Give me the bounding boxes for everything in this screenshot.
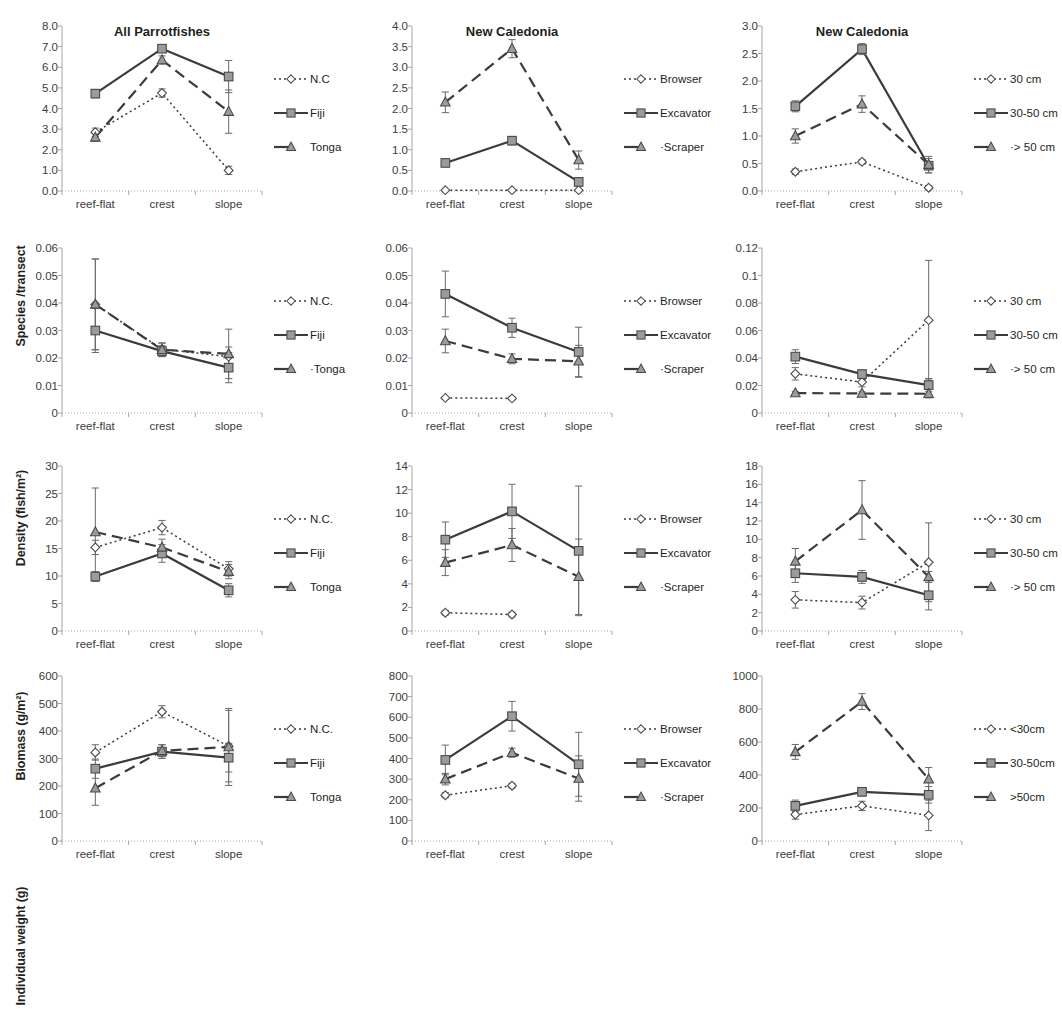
legend-item[interactable]: ·> 50 cm	[974, 570, 1062, 604]
legend-marker-icon	[974, 546, 1008, 560]
y-tick-label: 200	[739, 802, 758, 814]
plot-area: 02004006008001000reef-flatcrestslope	[762, 676, 962, 841]
y-tick-labels: 0.00.51.01.52.02.53.03.54.0	[358, 26, 408, 191]
y-tick-label: 0.5	[392, 164, 408, 176]
y-tick-label: 200	[39, 780, 58, 792]
y-tick-labels: 0100200300400500600	[8, 676, 58, 841]
legend-label: Fiji	[308, 107, 325, 119]
legend-item[interactable]: 30 cm	[974, 502, 1062, 536]
x-tick-label: reef-flat	[426, 420, 465, 432]
y-tick-label: 2.0	[392, 103, 408, 115]
x-tick-labels: reef-flatcrestslope	[412, 413, 612, 437]
legend-marker-icon	[974, 362, 1008, 376]
legend-label: N.C.	[308, 295, 333, 307]
x-tick-label: crest	[850, 848, 875, 860]
plot-area: 051015202530reef-flatcrestslope	[62, 466, 262, 631]
legend-item[interactable]: 30-50 cm	[974, 96, 1062, 130]
y-tick-label: 14	[395, 460, 408, 472]
y-tick-label: 0	[52, 407, 58, 419]
legend-marker-icon	[624, 790, 658, 804]
legend-label: Fiji	[308, 329, 325, 341]
x-tick-label: slope	[565, 848, 593, 860]
x-tick-label: reef-flat	[426, 198, 465, 210]
legend-marker-icon	[974, 790, 1008, 804]
legend-label: ·Tonga	[308, 363, 345, 375]
y-tick-label: 0.05	[386, 270, 408, 282]
y-axis-title: Individual weight (g)	[14, 841, 32, 1009]
legend-item[interactable]: 30 cm	[974, 62, 1062, 96]
x-tick-labels: reef-flatcrestslope	[62, 841, 262, 865]
x-tick-label: slope	[565, 420, 593, 432]
x-tick-label: slope	[215, 198, 243, 210]
legend-label: N.C.	[308, 723, 333, 735]
x-tick-label: crest	[150, 420, 175, 432]
y-tick-label: 8.0	[42, 20, 58, 32]
y-tick-label: 0	[402, 625, 408, 637]
chart-panel-p10: Individual weight (g)0100200300400500600…	[0, 668, 350, 883]
plot-area: 00.020.040.060.080.10.12reef-flatcrestsl…	[762, 248, 962, 413]
y-tick-label: 300	[389, 773, 408, 785]
y-tick-label: 14	[745, 497, 758, 509]
chart-panel-p3: 0.00.51.01.52.02.53.0reef-flatcrestslope…	[700, 18, 1050, 233]
y-tick-label: 0.0	[392, 185, 408, 197]
y-tick-label: 0.01	[36, 380, 58, 392]
y-tick-label: 1.0	[42, 164, 58, 176]
legend-item[interactable]: ·> 50 cm	[974, 352, 1062, 386]
x-tick-label: crest	[500, 848, 525, 860]
x-tick-label: reef-flat	[76, 848, 115, 860]
legend-label: 30-50 cm	[1008, 547, 1058, 559]
legend-marker-icon	[624, 140, 658, 154]
legend-item[interactable]: 30 cm	[974, 284, 1062, 318]
legend-item[interactable]: ·> 50 cm	[974, 130, 1062, 164]
y-tick-label: 16	[745, 478, 758, 490]
legend-item[interactable]: >50cm	[974, 780, 1062, 814]
legend-marker-icon	[974, 72, 1008, 86]
y-tick-label: 0.06	[36, 242, 58, 254]
y-tick-label: 4.0	[392, 20, 408, 32]
legend-label: Tonga	[308, 791, 341, 803]
y-tick-labels: 0.01.02.03.04.05.06.07.08.0	[8, 26, 58, 191]
y-tick-labels: 0100200300400500600700800	[358, 676, 408, 841]
legend-marker-icon	[624, 756, 658, 770]
legend-marker-icon	[624, 546, 658, 560]
y-tick-label: 5.0	[42, 82, 58, 94]
legend-marker-icon	[624, 722, 658, 736]
chart-panel-p12: 02004006008001000reef-flatcrestslope<30c…	[700, 668, 1050, 883]
x-tick-label: crest	[500, 198, 525, 210]
legend-label: ·Scraper	[658, 791, 704, 803]
plot-area: 0100200300400500600700800reef-flatcrests…	[412, 676, 612, 841]
y-tick-label: 6	[402, 554, 408, 566]
legend-item[interactable]: <30cm	[974, 712, 1062, 746]
x-tick-label: crest	[500, 638, 525, 650]
y-tick-label: 0	[402, 407, 408, 419]
legend-marker-icon	[624, 362, 658, 376]
legend-marker-icon	[274, 756, 308, 770]
legend-label: Fiji	[308, 757, 325, 769]
y-tick-label: 100	[389, 814, 408, 826]
legend-marker-icon	[974, 580, 1008, 594]
legend-label: Fiji	[308, 547, 325, 559]
plot-canvas	[762, 248, 962, 413]
legend-label: N.C.	[308, 513, 333, 525]
legend-label: 30-50cm	[1008, 757, 1055, 769]
chart-panel-p5: 00.010.020.030.040.050.06reef-flatcrests…	[350, 240, 700, 455]
legend-label: Tonga	[308, 141, 341, 153]
y-tick-label: 25	[45, 488, 58, 500]
y-tick-label: 0.04	[36, 297, 58, 309]
plot-canvas	[412, 26, 612, 191]
y-tick-label: 2.0	[42, 144, 58, 156]
x-tick-label: slope	[565, 638, 593, 650]
y-tick-labels: 00.010.020.030.040.050.06	[8, 248, 58, 413]
legend-item[interactable]: 30-50 cm	[974, 536, 1062, 570]
legend-item[interactable]: 30-50 cm	[974, 318, 1062, 352]
plot-area: 024681012141618reef-flatcrestslope	[762, 466, 962, 631]
y-tick-label: 600	[739, 736, 758, 748]
legend-label: ·Scraper	[658, 581, 704, 593]
legend-label: Browser	[658, 73, 702, 85]
legend-label: 30-50 cm	[1008, 107, 1058, 119]
y-tick-labels: 02468101214	[358, 466, 408, 631]
legend-item[interactable]: 30-50cm	[974, 746, 1062, 780]
chart-panel-p7: Biomass (g/m²)051015202530reef-flatcrest…	[0, 458, 350, 673]
y-tick-label: 0.0	[742, 185, 758, 197]
y-tick-label: 12	[395, 484, 408, 496]
